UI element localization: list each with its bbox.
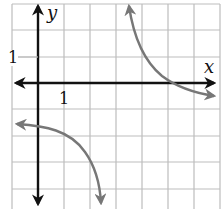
grid — [12, 4, 220, 209]
y-tick-label: 1 — [8, 48, 18, 67]
axes — [16, 6, 214, 204]
x-tick-label: 1 — [59, 89, 69, 108]
x-axis-label: x — [204, 56, 214, 77]
graph: 1 1 y x — [0, 0, 223, 209]
y-axis-label: y — [46, 2, 58, 23]
